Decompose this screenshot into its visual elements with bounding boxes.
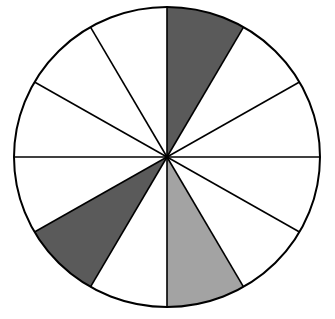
- center-point: [165, 155, 169, 159]
- fraction-circle-diagram: [0, 0, 335, 319]
